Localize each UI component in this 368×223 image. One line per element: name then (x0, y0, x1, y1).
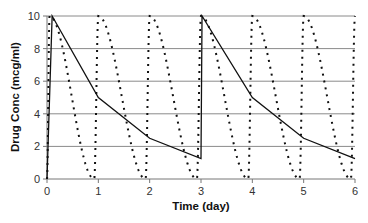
y-tick-label: 6 (34, 75, 40, 87)
x-axis-ticks: 0123456 (44, 179, 358, 197)
x-tick-label: 6 (352, 185, 358, 197)
y-tick-label: 0 (34, 173, 40, 185)
series-group (47, 16, 355, 179)
x-tick-label: 0 (44, 185, 50, 197)
x-tick-label: 1 (95, 185, 101, 197)
solid-series-line (47, 16, 355, 179)
x-axis-title: Time (day) (172, 200, 229, 212)
y-tick-label: 10 (28, 10, 40, 22)
x-tick-label: 5 (301, 185, 307, 197)
y-tick-label: 2 (34, 140, 40, 152)
y-axis-ticks: 0246810 (28, 10, 47, 185)
x-tick-label: 4 (249, 185, 255, 197)
drug-concentration-chart: 0246810 0123456 Time (day) Drug Conc (mc… (0, 0, 368, 223)
x-tick-label: 2 (147, 185, 153, 197)
y-tick-label: 8 (34, 43, 40, 55)
y-tick-label: 4 (34, 108, 40, 120)
x-tick-label: 3 (198, 185, 204, 197)
y-axis-title: Drug Conc (mcg/ml) (9, 42, 21, 152)
